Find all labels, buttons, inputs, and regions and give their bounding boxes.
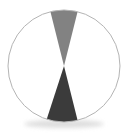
pie-chart-figure (0, 0, 136, 135)
pie-chart-canvas (0, 0, 136, 135)
